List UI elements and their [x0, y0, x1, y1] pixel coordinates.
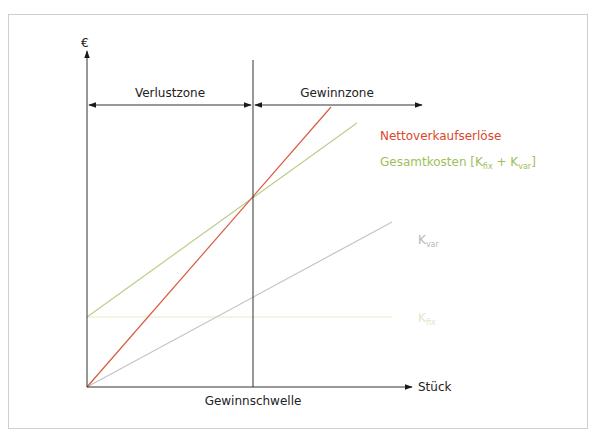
variable-costs-label: Kvar — [418, 233, 440, 249]
revenue-line — [87, 107, 331, 387]
loss-zone-label: Verlustzone — [135, 86, 205, 100]
total-costs-label: Gesamtkosten [Kfix + Kvar] — [380, 155, 536, 171]
total-costs-line — [87, 123, 357, 317]
profit-zone-label: Gewinnzone — [300, 86, 374, 100]
y-axis-label: € — [81, 36, 89, 50]
breakeven-label: Gewinnschwelle — [205, 394, 302, 408]
fixed-costs-label: Kfix — [418, 311, 436, 327]
x-axis-label: Stück — [418, 380, 452, 394]
variable-costs-line — [87, 222, 392, 387]
revenue-label: Nettoverkaufserlöse — [380, 129, 501, 143]
breakeven-diagram: € Stück Verlustzone Gewinnzone Gewinnsch… — [0, 0, 595, 442]
